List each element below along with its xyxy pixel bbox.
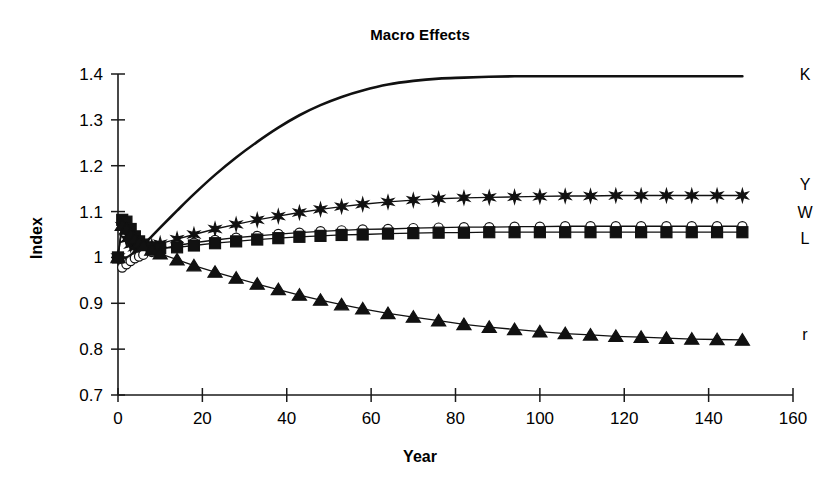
chart-title: Macro Effects (370, 26, 470, 43)
data-point-marker-r (170, 253, 184, 264)
data-point-marker-Y (273, 210, 284, 223)
y-tick-label-1.4: 1.4 (79, 65, 103, 84)
data-point-marker-L (560, 227, 571, 238)
data-point-marker-L (712, 227, 723, 238)
series-L (113, 214, 748, 263)
data-point-marker-L (610, 227, 621, 238)
data-point-marker-L (686, 227, 697, 238)
x-tick-label-160: 160 (779, 409, 807, 428)
data-point-marker-r (229, 272, 243, 283)
data-point-marker-L (231, 236, 242, 247)
x-tick-label-100: 100 (526, 409, 554, 428)
chart-canvas: Macro Effects 0.70.80.911.11.21.31.40204… (0, 0, 830, 499)
data-point-marker-L (509, 227, 520, 238)
series-W (113, 222, 747, 272)
macro-effects-chart: Macro Effects 0.70.80.911.11.21.31.40204… (0, 0, 830, 499)
data-point-marker-Y (209, 222, 220, 235)
data-point-marker-L (408, 228, 419, 239)
x-axis-title: Year (403, 448, 437, 465)
y-tick-label-1.1: 1.1 (79, 203, 103, 222)
data-point-marker-L (737, 227, 748, 238)
data-point-marker-L (336, 229, 347, 240)
data-point-marker-L (357, 229, 368, 240)
data-point-marker-Y (230, 218, 241, 231)
data-point-marker-L (484, 227, 495, 238)
series-group (111, 76, 749, 345)
x-tick-label-140: 140 (694, 409, 722, 428)
y-tick-label-0.8: 0.8 (79, 340, 103, 359)
series-end-label-K: K (800, 66, 811, 83)
y-tick-label-1: 1 (94, 248, 103, 267)
data-point-marker-r (271, 283, 285, 294)
data-point-marker-L (661, 227, 672, 238)
x-tick-label-80: 80 (446, 409, 465, 428)
data-point-marker-r (187, 259, 201, 270)
x-tick-label-40: 40 (277, 409, 296, 428)
data-point-marker-L (252, 234, 263, 245)
series-end-label-W: W (797, 204, 813, 221)
chart-title-group: Macro Effects (370, 26, 470, 43)
y-axis-title: Index (28, 217, 45, 259)
data-point-marker-r (250, 278, 264, 289)
series-end-label-r: r (802, 326, 808, 343)
data-point-marker-L (383, 228, 394, 239)
y-tick-label-1.3: 1.3 (79, 111, 103, 130)
data-point-marker-L (188, 240, 199, 251)
data-point-marker-L (315, 230, 326, 241)
data-point-marker-L (534, 227, 545, 238)
data-point-marker-L (458, 227, 469, 238)
data-point-marker-Y (252, 213, 263, 226)
data-point-marker-L (636, 227, 647, 238)
series-end-label-group: KYWLr (797, 66, 813, 343)
x-tick-label-60: 60 (362, 409, 381, 428)
data-point-marker-L (273, 233, 284, 244)
y-tick-label-0.9: 0.9 (79, 294, 103, 313)
x-tick-label-120: 120 (610, 409, 638, 428)
data-point-marker-L (210, 238, 221, 249)
data-point-marker-L (433, 227, 444, 238)
x-tick-label-20: 20 (193, 409, 212, 428)
series-end-label-L: L (801, 230, 810, 247)
data-point-marker-L (172, 242, 183, 253)
data-point-marker-r (292, 289, 306, 300)
series-r (111, 219, 749, 345)
y-tick-label-0.7: 0.7 (79, 386, 103, 405)
series-end-label-Y: Y (800, 176, 811, 193)
data-point-marker-r (208, 266, 222, 277)
data-point-marker-L (294, 231, 305, 242)
data-point-marker-L (585, 227, 596, 238)
y-tick-label-1.2: 1.2 (79, 157, 103, 176)
x-tick-label-0: 0 (113, 409, 122, 428)
